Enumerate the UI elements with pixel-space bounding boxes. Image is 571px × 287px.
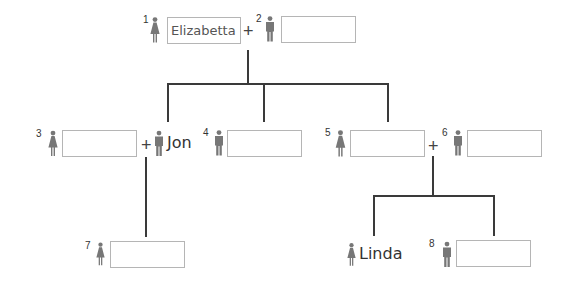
couple-plus-symbol: + [243, 22, 254, 40]
person-name-linda: Linda [359, 244, 402, 264]
couple-plus-symbol: + [428, 137, 439, 155]
male-icon [214, 130, 224, 156]
name-input-person-6[interactable] [467, 130, 542, 157]
female-icon [96, 240, 105, 268]
connector-gen3-horizontal [373, 195, 495, 197]
name-input-person-7[interactable] [110, 241, 185, 268]
connector-couple1-down [247, 50, 249, 85]
connector-gen2-horizontal [167, 83, 389, 85]
male-icon [154, 130, 164, 157]
male-icon [453, 130, 463, 156]
female-icon [150, 17, 160, 43]
female-icon [347, 241, 356, 268]
person-6: 6 [441, 126, 545, 160]
connector-to-jon [167, 83, 169, 122]
person-4: 4 [202, 126, 304, 160]
couple-plus-symbol: + [141, 136, 152, 154]
person-linda: Linda [346, 240, 402, 270]
person-number: 8 [429, 238, 435, 249]
name-input-person-3[interactable] [62, 130, 137, 157]
connector-to-person5 [387, 83, 389, 122]
person-jon: Jon [153, 129, 198, 159]
female-icon [335, 130, 346, 157]
person-name-jon: Jon [167, 133, 192, 153]
person-number: 3 [36, 128, 42, 139]
connector-to-person8 [493, 195, 495, 236]
person-number: 4 [203, 127, 209, 138]
name-input-person-1[interactable]: Elizabetta [167, 17, 241, 44]
name-input-person-5[interactable] [350, 130, 425, 157]
person-2: 2 [255, 12, 357, 46]
person-number: 6 [442, 127, 448, 138]
female-icon [48, 130, 58, 157]
name-input-person-2[interactable] [281, 16, 356, 43]
person-3: 3 [35, 126, 139, 160]
person-number: 7 [85, 240, 91, 251]
person-7: 7 [83, 237, 187, 271]
name-input-person-8[interactable] [456, 240, 531, 267]
connector-couple2-down [145, 157, 147, 237]
connector-couple3-down [432, 156, 434, 197]
connector-to-linda [373, 195, 375, 236]
person-number: 2 [256, 13, 262, 24]
person-5: 5 [324, 126, 428, 160]
name-input-person-4[interactable] [227, 130, 302, 157]
male-icon [265, 16, 275, 42]
connector-to-person4 [263, 83, 265, 122]
male-icon [442, 241, 452, 268]
person-number: 1 [143, 14, 149, 25]
person-1: 1 Elizabetta [140, 12, 242, 46]
person-8: 8 [428, 236, 532, 270]
person-number: 5 [325, 127, 331, 138]
